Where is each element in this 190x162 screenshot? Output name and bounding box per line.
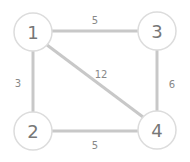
- node-label: 3: [151, 21, 162, 42]
- edge-weight-2-4: 5: [92, 140, 98, 151]
- node-2: 2: [14, 112, 52, 150]
- node-label: 1: [27, 22, 38, 43]
- edge-1-4: [47, 45, 143, 117]
- edge-weight-1-4: 12: [95, 69, 108, 80]
- node-4: 4: [138, 111, 176, 149]
- edge-weight-1-3: 5: [92, 15, 98, 26]
- weighted-graph: 5 3 12 6 5 1 3 2 4: [0, 0, 190, 162]
- edge-weight-1-2: 3: [15, 78, 21, 89]
- node-1: 1: [14, 13, 52, 51]
- edge-weight-3-4: 6: [169, 79, 175, 90]
- node-3: 3: [138, 12, 176, 50]
- node-label: 2: [27, 121, 38, 142]
- node-label: 4: [151, 120, 162, 141]
